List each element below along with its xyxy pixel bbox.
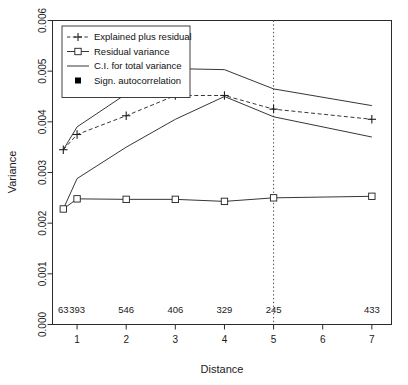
legend-item-label: Residual variance <box>94 46 170 57</box>
x-tick-label: 3 <box>173 334 179 345</box>
y-tick-label: 0.004 <box>37 109 48 134</box>
residual-variance-marker <box>74 196 80 202</box>
legend-item-label: Explained plus residual <box>94 31 192 42</box>
residual-variance-marker <box>60 206 66 212</box>
residual-variance-marker <box>270 195 276 201</box>
chart-background <box>0 0 408 385</box>
x-axis-title: Distance <box>201 363 244 375</box>
sample-size-label: 63 <box>58 304 69 315</box>
y-tick-label: 0.005 <box>37 58 48 83</box>
x-tick-label: 6 <box>320 334 326 345</box>
sample-size-label: 245 <box>266 304 282 315</box>
x-tick-label: 1 <box>74 334 80 345</box>
sample-size-label: 546 <box>118 304 134 315</box>
residual-variance-marker <box>369 193 375 199</box>
y-axis-title: Variance <box>6 151 18 194</box>
legend-key-residual-variance <box>75 48 81 54</box>
sample-size-label: 329 <box>217 304 233 315</box>
y-tick-label: 0.000 <box>37 312 48 337</box>
x-tick-label: 2 <box>123 334 129 345</box>
x-tick-label: 7 <box>369 334 375 345</box>
legend-item-label: Sign. autocorrelation <box>94 75 181 86</box>
residual-variance-marker <box>172 196 178 202</box>
x-tick-label: 4 <box>222 334 228 345</box>
x-tick-label: 5 <box>271 334 277 345</box>
sample-size-label: 393 <box>69 304 85 315</box>
y-tick-label: 0.003 <box>37 160 48 185</box>
residual-variance-marker <box>123 196 129 202</box>
legend-key-sign-autocorrelation <box>75 78 81 84</box>
chart-canvas: 0.0000.0010.0020.0030.0040.0050.006 1234… <box>0 0 408 385</box>
sample-size-label: 433 <box>364 304 380 315</box>
y-tick-label: 0.002 <box>37 210 48 235</box>
chart-legend: Explained plus residualResidual variance… <box>62 26 192 98</box>
y-tick-label: 0.001 <box>37 261 48 286</box>
y-tick-label: 0.006 <box>37 8 48 33</box>
variogram-chart-figure: 0.0000.0010.0020.0030.0040.0050.006 1234… <box>0 0 408 385</box>
sample-size-label: 406 <box>167 304 183 315</box>
residual-variance-marker <box>221 198 227 204</box>
legend-item-label: C.I. for total variance <box>94 60 182 71</box>
